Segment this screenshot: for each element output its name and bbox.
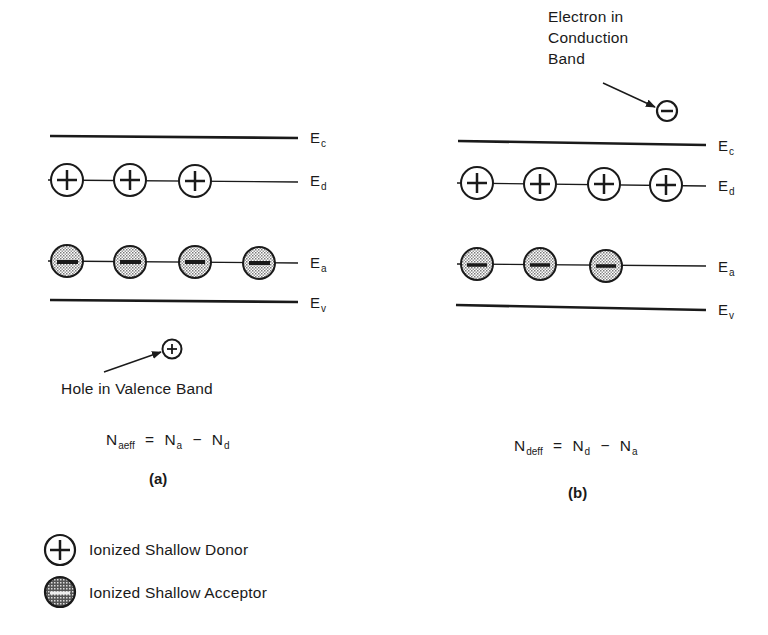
- legend-acceptor-icon: [45, 577, 75, 607]
- hole-icon: [163, 340, 182, 359]
- conduction-band-edge-line: [458, 141, 706, 145]
- ionized-donor-icon: [524, 168, 556, 200]
- valence-band-edge-line: [456, 305, 706, 310]
- conduction-band-edge-line: [50, 136, 298, 138]
- donor-level-line: [48, 180, 298, 182]
- ec-label: Ec: [718, 138, 734, 153]
- panel-a: [48, 136, 298, 372]
- acceptor-level-line: [457, 264, 706, 266]
- legend-donor-icon: [45, 535, 75, 565]
- ed-label: Ed: [718, 178, 735, 193]
- ev-label: Ev: [718, 302, 734, 317]
- caption-b: (b): [568, 484, 587, 501]
- equation-a: Naeff = Na − Nd: [106, 431, 230, 449]
- valence-band-edge-line: [50, 300, 298, 302]
- ionized-donor-icon: [114, 164, 146, 196]
- equation-b: Ndeff = Nd − Na: [514, 437, 638, 455]
- ev-label: Ev: [310, 295, 326, 310]
- ionized-donor-icon: [461, 167, 493, 199]
- legend-donor-label: Ionized Shallow Donor: [89, 541, 248, 559]
- caption-a: (a): [149, 470, 167, 487]
- ea-label: Ea: [310, 255, 327, 270]
- ionized-acceptor-icon: [461, 248, 493, 280]
- ionized-acceptor-icon: [51, 245, 83, 277]
- ionized-donor-icon: [588, 168, 620, 200]
- hole-annotation: Hole in Valence Band: [61, 378, 213, 399]
- legend-acceptor-label: Ionized Shallow Acceptor: [89, 584, 267, 602]
- panel-b: [456, 83, 706, 310]
- band-diagram-canvas: [0, 0, 768, 635]
- ionized-acceptor-icon: [114, 246, 146, 278]
- ionized-donor-icon: [179, 165, 211, 197]
- hole-arrow: [104, 352, 161, 372]
- ec-label: Ec: [310, 130, 326, 145]
- ionized-acceptor-icon: [590, 250, 622, 282]
- ionized-acceptor-icon: [243, 247, 275, 279]
- ionized-acceptor-icon: [524, 248, 556, 280]
- ea-label: Ea: [718, 259, 735, 274]
- electron-icon: [657, 101, 677, 121]
- electron-arrow: [603, 83, 655, 107]
- electron-annotation: Electron in Conduction Band: [548, 6, 628, 69]
- ionized-donor-icon: [51, 164, 83, 196]
- ionized-acceptor-icon: [179, 246, 211, 278]
- ed-label: Ed: [310, 173, 327, 188]
- ionized-donor-icon: [650, 169, 682, 201]
